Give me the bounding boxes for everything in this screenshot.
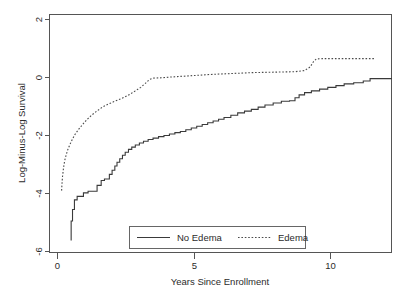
log-minus-log-survival-plot: 2 0 -2 -4 -6 Log-Minus-Log Survival 0 5 …: [0, 0, 412, 293]
x-axis-tick-labels: 0 5 10: [55, 260, 336, 271]
y-tick-label-1: 0: [33, 75, 44, 80]
y-tick-label-4: -6: [33, 247, 44, 255]
y-tick-label-2: -2: [33, 131, 44, 139]
series-layer: [62, 59, 392, 241]
y-axis-tick-labels: 2 0 -2 -4 -6: [33, 17, 44, 256]
series-line-edema: [62, 59, 375, 191]
y-axis-title: Log-Minus-Log Survival: [16, 83, 27, 183]
chart-legend[interactable]: No Edema Edema: [130, 227, 309, 249]
series-line-no-edema: [71, 79, 392, 241]
y-axis-ticks: [45, 20, 50, 252]
x-tick-label-0: 0: [55, 260, 60, 271]
x-axis-ticks: [58, 253, 331, 259]
legend-label-no-edema: No Edema: [177, 232, 223, 243]
chart-figure: 2 0 -2 -4 -6 Log-Minus-Log Survival 0 5 …: [0, 0, 412, 293]
x-axis-title: Years Since Enrollment: [171, 276, 270, 287]
x-tick-label-1: 5: [192, 260, 197, 271]
x-tick-label-2: 10: [325, 260, 336, 271]
y-tick-label-3: -4: [33, 189, 44, 197]
plot-frame: [50, 15, 392, 253]
y-tick-label-0: 2: [33, 17, 44, 22]
legend-label-edema: Edema: [278, 232, 309, 243]
